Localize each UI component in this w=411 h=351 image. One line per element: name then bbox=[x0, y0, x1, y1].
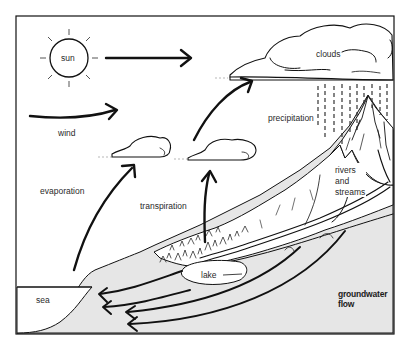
evaporation-label: evaporation bbox=[40, 186, 85, 196]
svg-text:flow: flow bbox=[338, 299, 355, 309]
sun-arrow-icon bbox=[106, 50, 191, 66]
svg-text:streams: streams bbox=[335, 187, 365, 197]
transpiration-label: transpiration bbox=[140, 201, 187, 211]
water-cycle-diagram: lake sun wind bbox=[0, 0, 411, 351]
small-cloud-right-icon bbox=[174, 139, 256, 160]
small-cloud-left-icon bbox=[98, 136, 171, 157]
rivers-and-streams-label: rivers and streams bbox=[334, 163, 366, 197]
svg-text:and: and bbox=[335, 176, 349, 186]
wind-label: wind bbox=[57, 128, 76, 138]
big-cloud-icon bbox=[215, 24, 393, 80]
cloud-rise-arrow-icon bbox=[194, 78, 252, 140]
lake-label: lake bbox=[201, 270, 217, 280]
wind-arrow-icon bbox=[30, 104, 117, 119]
precipitation-label: precipitation bbox=[268, 113, 314, 123]
evaporation-arrow-icon bbox=[74, 165, 135, 270]
clouds-label: clouds bbox=[316, 49, 341, 59]
sun-label: sun bbox=[61, 53, 75, 63]
sea-label: sea bbox=[36, 295, 50, 305]
svg-text:rivers: rivers bbox=[335, 165, 356, 175]
svg-text:groundwater: groundwater bbox=[338, 289, 388, 299]
